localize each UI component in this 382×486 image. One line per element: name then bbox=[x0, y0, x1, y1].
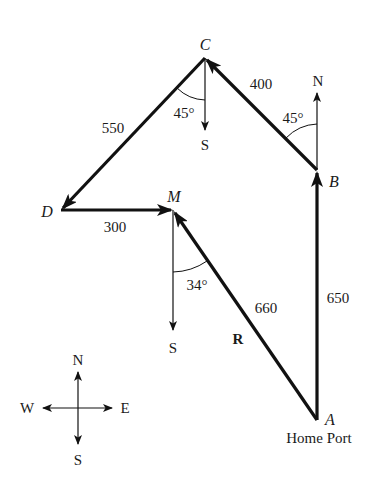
point-label-c: C bbox=[200, 36, 211, 53]
navigation-diagram: N S W E C B D M A Home Port N S S 650 40… bbox=[0, 0, 382, 486]
south-label-m: S bbox=[169, 340, 177, 356]
vector-cd bbox=[63, 58, 205, 208]
resultant-label-r: R bbox=[233, 331, 244, 347]
angle-label-c: 45° bbox=[174, 105, 195, 121]
point-label-m: M bbox=[166, 188, 182, 205]
north-label-b: N bbox=[313, 73, 324, 89]
compass-rose: N S W E bbox=[20, 352, 130, 468]
point-label-d: D bbox=[40, 203, 53, 220]
south-label-c: S bbox=[201, 137, 209, 153]
diagram-svg: N S W E C B D M A Home Port N S S 650 40… bbox=[0, 0, 382, 486]
length-label-resultant: 660 bbox=[255, 300, 278, 316]
point-label-a: A bbox=[324, 411, 335, 428]
angle-arc-m bbox=[173, 261, 207, 272]
angle-label-b: 45° bbox=[283, 110, 304, 126]
point-label-b: B bbox=[329, 173, 339, 190]
length-label-dm: 300 bbox=[104, 219, 127, 235]
compass-west-label: W bbox=[20, 400, 35, 416]
compass-north-label: N bbox=[73, 352, 84, 368]
angle-label-m: 34° bbox=[187, 277, 208, 293]
compass-south-label: S bbox=[74, 452, 82, 468]
length-label-ab: 650 bbox=[327, 290, 350, 306]
angle-arc-c bbox=[177, 88, 205, 100]
length-label-cd: 550 bbox=[102, 120, 125, 136]
angle-arc-b bbox=[286, 124, 317, 138]
compass-east-label: E bbox=[120, 400, 129, 416]
vector-resultant-r bbox=[175, 213, 317, 420]
length-label-bc: 400 bbox=[250, 76, 273, 92]
home-port-label: Home Port bbox=[286, 430, 352, 446]
